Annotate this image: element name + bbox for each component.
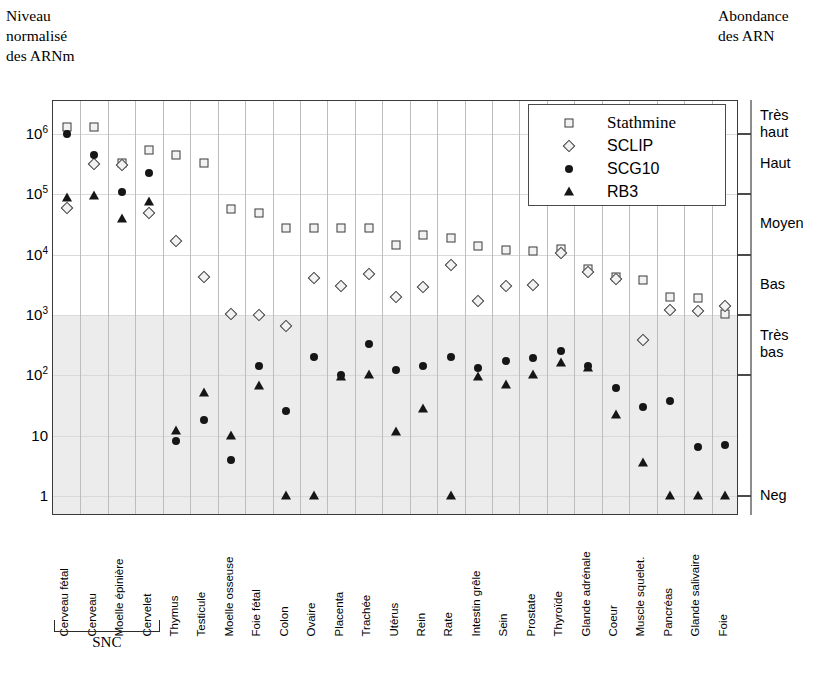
vertical-gridline (190, 101, 191, 514)
right-abundance-axis: Très hautHautMoyenBasTrès basNeg (742, 100, 830, 515)
data-point-stathmine (145, 146, 154, 155)
x-axis-category-labels: Cerveau fétalCerveauMoelle épinièreCerve… (52, 516, 738, 636)
x-axis-label: Trachée (361, 594, 373, 636)
legend: StathmineSCLIPSCG10RB3 (528, 104, 726, 206)
x-axis-label: Foie fétal (251, 589, 263, 636)
data-point-scg10 (447, 353, 455, 361)
x-axis-label: Sein (498, 613, 510, 636)
data-point-scg10 (392, 366, 400, 374)
data-point-stathmine (227, 205, 236, 214)
data-point-rb3 (418, 403, 428, 412)
data-point-scg10 (557, 347, 565, 355)
x-axis-label: Rate (443, 612, 455, 636)
right-axis-label: Neg (760, 487, 787, 504)
legend-label: Stathmine (607, 113, 676, 133)
x-axis-label: Placenta (333, 591, 345, 636)
legend-marker-icon (563, 140, 576, 153)
data-point-stathmine (254, 209, 263, 218)
vertical-gridline (355, 101, 356, 514)
right-axis-label: Très haut (760, 107, 788, 141)
vertical-gridline (245, 101, 246, 514)
data-point-scg10 (694, 443, 702, 451)
data-point-scg10 (502, 357, 510, 365)
y-axis-tick-label: 1 (40, 487, 48, 504)
data-point-rb3 (309, 491, 319, 500)
vertical-gridline (163, 101, 164, 514)
y-axis-tick-label: 102 (26, 365, 48, 383)
data-point-scg10 (310, 353, 318, 361)
right-axis-label: Moyen (760, 215, 804, 232)
x-axis-label: Glande adrénale (580, 551, 592, 636)
vertical-gridline (492, 101, 493, 514)
data-point-rb3 (281, 491, 291, 500)
horizontal-gridline (53, 315, 737, 316)
right-axis-tick (738, 193, 751, 195)
data-point-rb3 (199, 388, 209, 397)
right-axis-tick (738, 314, 751, 316)
vertical-gridline (465, 101, 466, 514)
data-point-scg10 (529, 354, 537, 362)
right-axis-title: Abondance des ARN (718, 6, 789, 46)
data-point-scg10 (90, 151, 98, 159)
data-point-rb3 (473, 371, 483, 380)
data-point-sclip (307, 272, 320, 285)
y-axis-tick-label: 10 (31, 426, 48, 443)
data-point-rb3 (117, 213, 127, 222)
data-point-scg10 (666, 397, 674, 405)
vertical-gridline (135, 101, 136, 514)
y-axis-tick-label: 103 (26, 305, 48, 323)
horizontal-gridline (53, 436, 737, 437)
y-axis-tick-label: 106 (26, 124, 48, 142)
data-point-stathmine (474, 241, 483, 250)
legend-marker-icon (565, 119, 574, 128)
horizontal-gridline (53, 375, 737, 376)
data-point-rb3 (665, 491, 675, 500)
data-point-scg10 (639, 403, 647, 411)
legend-marker-icon (564, 187, 574, 196)
y-axis-tick-label: 105 (26, 184, 48, 202)
x-axis-label: Glande salivaire (690, 554, 702, 636)
y-axis-title: Niveau normalisé des ARNm (6, 6, 74, 66)
data-point-rb3 (364, 370, 374, 379)
vertical-gridline (300, 101, 301, 514)
data-point-rb3 (720, 491, 730, 500)
data-point-rb3 (528, 370, 538, 379)
data-point-rb3 (62, 193, 72, 202)
data-point-scg10 (612, 384, 620, 392)
legend-item-rb3[interactable]: RB3 (529, 180, 725, 204)
data-point-scg10 (282, 407, 290, 415)
right-axis-tick (738, 254, 751, 256)
data-point-sclip (198, 271, 211, 284)
x-axis-label: Foie (717, 614, 729, 636)
data-point-sclip (362, 267, 375, 280)
data-point-rb3 (638, 458, 648, 467)
right-axis-tick (738, 374, 751, 376)
snc-group-bracket (54, 620, 160, 632)
data-point-stathmine (446, 233, 455, 242)
legend-item-sclip[interactable]: SCLIP (529, 134, 725, 158)
data-point-stathmine (501, 245, 510, 254)
legend-item-stathmine[interactable]: Stathmine (529, 111, 725, 135)
data-point-scg10 (118, 188, 126, 196)
x-axis-label: Thyroïde (553, 591, 565, 636)
data-point-stathmine (364, 223, 373, 232)
data-point-rb3 (583, 363, 593, 372)
data-point-rb3 (446, 491, 456, 500)
data-point-sclip (170, 234, 183, 247)
vertical-gridline (273, 101, 274, 514)
data-point-stathmine (529, 246, 538, 255)
right-axis-label: Haut (760, 154, 791, 171)
horizontal-gridline (53, 496, 737, 497)
horizontal-gridline (53, 255, 737, 256)
x-axis-label: Moelle osseuse (223, 556, 235, 636)
snc-group-label: SNC (54, 634, 160, 651)
data-point-stathmine (638, 275, 647, 284)
legend-marker-icon (565, 165, 573, 173)
right-axis-tick (738, 133, 751, 135)
legend-item-scg10[interactable]: SCG10 (529, 157, 725, 181)
x-axis-label: Utérus (388, 602, 400, 636)
data-point-stathmine (419, 231, 428, 240)
data-point-scg10 (172, 437, 180, 445)
data-point-sclip (472, 295, 485, 308)
chart-root: Niveau normalisé des ARNm Abondance des … (0, 0, 830, 682)
